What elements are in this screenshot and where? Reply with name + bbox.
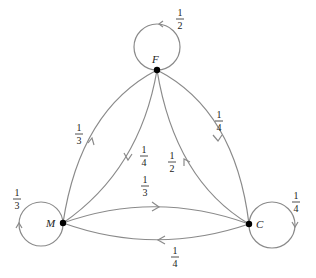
prob-label-f-m: 1 4	[140, 144, 148, 168]
svg-text:4: 4	[217, 122, 222, 133]
svg-text:1: 1	[77, 122, 82, 133]
node-c	[246, 221, 252, 227]
svg-text:4: 4	[173, 258, 178, 269]
edge-f-c	[157, 70, 249, 224]
markov-chain-diagram: F M C 1 2 1 3 1 4 1 3 1 4 1 4 1 2 1 3	[0, 0, 316, 278]
arrow-f-c	[213, 135, 222, 141]
svg-text:4: 4	[142, 157, 147, 168]
svg-text:3: 3	[77, 135, 82, 146]
svg-text:2: 2	[178, 20, 183, 31]
prob-label-m-c: 1 3	[141, 174, 149, 198]
node-label-f: F	[151, 53, 159, 65]
svg-text:3: 3	[143, 187, 148, 198]
prob-label-m-f: 1 3	[75, 122, 83, 146]
svg-text:4: 4	[294, 203, 299, 214]
edge-c-f	[157, 70, 249, 224]
svg-text:1: 1	[217, 109, 222, 120]
svg-text:1: 1	[15, 187, 20, 198]
prob-label-c-c: 1 4	[292, 190, 300, 214]
prob-label-c-f: 1 2	[168, 150, 176, 174]
prob-label-m-m: 1 3	[13, 187, 21, 211]
node-f	[154, 67, 160, 73]
svg-text:1: 1	[294, 190, 299, 201]
loop-m-m	[19, 202, 63, 246]
svg-text:3: 3	[15, 200, 20, 211]
node-label-c: C	[256, 218, 264, 230]
edge-c-m	[63, 223, 249, 240]
svg-text:1: 1	[142, 144, 147, 155]
svg-text:1: 1	[173, 245, 178, 256]
prob-label-f-f: 1 2	[176, 7, 184, 31]
svg-text:1: 1	[143, 174, 148, 185]
prob-label-f-c: 1 4	[215, 109, 223, 133]
svg-text:2: 2	[170, 163, 175, 174]
node-label-m: M	[45, 217, 56, 229]
prob-label-c-m: 1 4	[171, 245, 179, 269]
node-m	[60, 220, 66, 226]
svg-text:1: 1	[170, 150, 175, 161]
svg-text:1: 1	[178, 7, 183, 18]
